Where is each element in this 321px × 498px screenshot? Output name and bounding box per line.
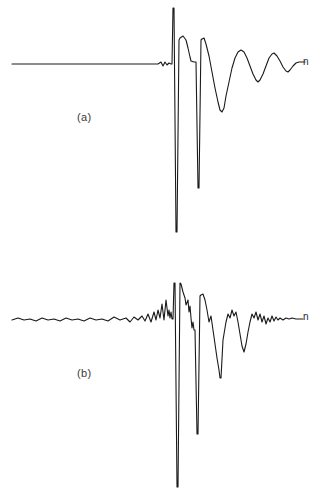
figure-root: (a) n (b) n xyxy=(0,0,321,498)
waveform-trace-a xyxy=(12,8,305,232)
panel-caption-b: (b) xyxy=(77,367,91,379)
panel-b xyxy=(0,249,321,498)
waveform-plot-b xyxy=(0,249,321,498)
axis-label-n-b: n xyxy=(303,311,309,322)
panel-caption-a: (a) xyxy=(77,111,91,123)
waveform-trace-b xyxy=(12,283,303,487)
panel-a: (a) n xyxy=(0,0,321,249)
axis-label-n-a: n xyxy=(303,56,309,67)
waveform-plot-a xyxy=(0,0,321,249)
